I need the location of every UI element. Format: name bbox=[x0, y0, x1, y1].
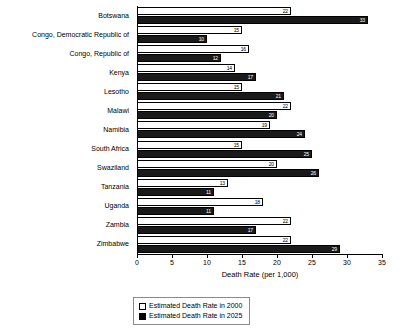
bar-value-label: 33 bbox=[360, 18, 365, 23]
legend-label-2025: Estimated Death Rate in 2025 bbox=[149, 311, 242, 321]
legend-item-2025: Estimated Death Rate in 2025 bbox=[139, 311, 242, 321]
category-label: Kenya bbox=[109, 69, 129, 77]
x-tick-mark bbox=[347, 255, 348, 258]
chart-legend: Estimated Death Rate in 2000 Estimated D… bbox=[133, 297, 250, 325]
bar-group: 1311 bbox=[137, 178, 382, 197]
bar-group: 2026 bbox=[137, 159, 382, 178]
legend-swatch-2025-icon bbox=[139, 313, 146, 320]
category-label: Congo, Democratic Republic of bbox=[32, 31, 129, 39]
bar-value-label: 16 bbox=[241, 47, 246, 52]
plot-area: 2233151016121417152122201924152520261311… bbox=[137, 6, 382, 254]
x-tick-label: 10 bbox=[203, 259, 211, 267]
x-tick-mark bbox=[242, 255, 243, 258]
bar-2025: 20 bbox=[137, 111, 277, 119]
x-tick-label: 5 bbox=[170, 259, 174, 267]
legend-label-2000: Estimated Death Rate in 2000 bbox=[149, 301, 242, 311]
category-label: Congo, Republic of bbox=[69, 50, 129, 58]
bar-value-label: 22 bbox=[283, 104, 288, 109]
bar-group: 1525 bbox=[137, 140, 382, 159]
x-tick-mark bbox=[312, 255, 313, 258]
bar-value-label: 15 bbox=[234, 28, 239, 33]
bar-2000: 20 bbox=[137, 160, 277, 168]
category-label: Zimbabwe bbox=[97, 240, 129, 248]
category-label: Swaziland bbox=[97, 164, 129, 172]
x-tick-label: 15 bbox=[238, 259, 246, 267]
bar-value-label: 15 bbox=[234, 85, 239, 90]
x-tick-label: 25 bbox=[308, 259, 316, 267]
bar-2000: 22 bbox=[137, 7, 291, 15]
bar-group: 1510 bbox=[137, 25, 382, 44]
x-tick-mark bbox=[137, 255, 138, 258]
bar-2025: 17 bbox=[137, 226, 256, 234]
legend-swatch-2000-icon bbox=[139, 303, 146, 310]
bar-value-label: 22 bbox=[283, 218, 288, 223]
bar-value-label: 11 bbox=[206, 189, 211, 194]
bar-value-label: 22 bbox=[283, 237, 288, 242]
category-label: South Africa bbox=[91, 145, 129, 153]
category-label: Tanzania bbox=[101, 183, 129, 191]
x-tick-label: 0 bbox=[135, 259, 139, 267]
x-axis-title: Death Rate (per 1,000) bbox=[137, 270, 383, 279]
category-label: Uganda bbox=[104, 202, 129, 210]
bar-value-label: 20 bbox=[269, 113, 274, 118]
bar-group: 1612 bbox=[137, 44, 382, 63]
bar-rows: 2233151016121417152122201924152520261311… bbox=[137, 6, 382, 254]
bar-group: 2229 bbox=[137, 235, 382, 254]
bar-2025: 21 bbox=[137, 92, 284, 100]
bar-2025: 17 bbox=[137, 73, 256, 81]
category-label: Zambia bbox=[106, 221, 129, 229]
bar-value-label: 10 bbox=[199, 37, 204, 42]
x-tick-label: 30 bbox=[343, 259, 351, 267]
category-label: Lesotho bbox=[104, 88, 129, 96]
bar-group: 2220 bbox=[137, 101, 382, 120]
bar-group: 2217 bbox=[137, 216, 382, 235]
bar-value-label: 13 bbox=[220, 180, 225, 185]
bar-group: 1417 bbox=[137, 63, 382, 82]
bar-group: 1521 bbox=[137, 82, 382, 101]
bar-2000: 22 bbox=[137, 217, 291, 225]
bar-value-label: 15 bbox=[234, 142, 239, 147]
x-axis-ticks: 05101520253035 bbox=[137, 255, 383, 269]
bar-2000: 22 bbox=[137, 102, 291, 110]
y-axis-category-labels: BotswanaCongo, Democratic Republic ofCon… bbox=[0, 6, 133, 254]
category-label: Malawi bbox=[107, 107, 129, 115]
x-tick-mark bbox=[172, 255, 173, 258]
bar-2025: 11 bbox=[137, 207, 214, 215]
bar-value-label: 26 bbox=[311, 170, 316, 175]
bar-2000: 19 bbox=[137, 121, 270, 129]
x-tick-label: 35 bbox=[378, 259, 386, 267]
bar-2025: 24 bbox=[137, 130, 305, 138]
bar-2000: 15 bbox=[137, 141, 242, 149]
bar-group: 1811 bbox=[137, 197, 382, 216]
bar-value-label: 11 bbox=[206, 208, 211, 213]
bar-2025: 25 bbox=[137, 150, 312, 158]
bar-value-label: 29 bbox=[332, 246, 337, 251]
x-tick-mark bbox=[207, 255, 208, 258]
bar-value-label: 12 bbox=[213, 56, 218, 61]
bar-value-label: 21 bbox=[276, 94, 281, 99]
bar-2000: 15 bbox=[137, 26, 242, 34]
chart-container: BotswanaCongo, Democratic Republic ofCon… bbox=[0, 0, 419, 334]
bar-value-label: 24 bbox=[297, 132, 302, 137]
bar-2000: 15 bbox=[137, 83, 242, 91]
bar-value-label: 19 bbox=[262, 123, 267, 128]
bar-value-label: 17 bbox=[248, 75, 253, 80]
x-tick-label: 20 bbox=[273, 259, 281, 267]
bar-2025: 29 bbox=[137, 245, 340, 253]
bar-value-label: 14 bbox=[227, 66, 232, 71]
bar-2000: 14 bbox=[137, 64, 235, 72]
bar-value-label: 22 bbox=[283, 9, 288, 14]
bar-group: 2233 bbox=[137, 6, 382, 25]
category-label: Botswana bbox=[98, 12, 129, 20]
bar-value-label: 20 bbox=[269, 161, 274, 166]
bar-2000: 16 bbox=[137, 45, 249, 53]
bar-value-label: 17 bbox=[248, 227, 253, 232]
bar-2000: 18 bbox=[137, 198, 263, 206]
x-tick-mark bbox=[277, 255, 278, 258]
bar-2025: 11 bbox=[137, 188, 214, 196]
bar-2000: 22 bbox=[137, 236, 291, 244]
bar-2025: 26 bbox=[137, 169, 319, 177]
x-tick-mark bbox=[382, 255, 383, 258]
bar-2000: 13 bbox=[137, 179, 228, 187]
bar-value-label: 25 bbox=[304, 151, 309, 156]
